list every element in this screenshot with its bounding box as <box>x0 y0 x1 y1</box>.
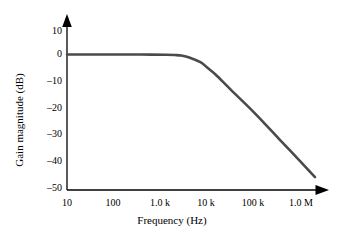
y-tick-label-0: 0 <box>26 49 62 59</box>
y-axis-title: Gain magnitude (dB) <box>13 40 25 200</box>
x-tick-label-1m: 1.0 M <box>289 198 313 208</box>
gain-magnitude-curve <box>67 54 315 177</box>
y-tick-label-10: 10 <box>26 26 62 36</box>
x-tick-label-100: 100 <box>106 198 121 208</box>
y-tick-label-minus-40: –40 <box>26 156 62 166</box>
x-tick-label-1k: 1.0 k <box>150 198 170 208</box>
y-tick-label-minus-20: –20 <box>26 103 62 113</box>
x-tick-label-100k: 100 k <box>242 198 265 208</box>
x-axis-arrow-icon <box>316 185 330 195</box>
y-tick-label-minus-50: –50 <box>26 183 62 193</box>
y-tick-label-minus-10: –10 <box>26 76 62 86</box>
bode-magnitude-plot: 10 0 –10 –20 –30 –40 –50 10 100 1.0 k 10… <box>0 0 344 238</box>
x-tick-label-10k: 10 k <box>197 198 215 208</box>
y-tick-label-minus-30: –30 <box>26 129 62 139</box>
x-tick-label-10: 10 <box>62 198 72 208</box>
y-axis-arrow-icon <box>62 14 72 27</box>
x-axis-title: Frequency (Hz) <box>0 214 344 226</box>
